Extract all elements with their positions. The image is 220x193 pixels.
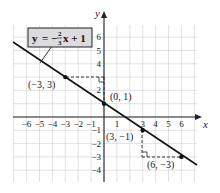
y-tick-label: −1 (91, 125, 101, 135)
y-tick-label: 5 (97, 46, 102, 56)
equation-denominator: 3 (58, 39, 62, 47)
data-point (141, 128, 145, 132)
x-tick-label: −5 (35, 119, 45, 129)
point-label-neg3-3: (−3, 3) (28, 79, 55, 91)
y-tick-label: 2 (97, 85, 102, 95)
x-axis-label: x (202, 118, 208, 130)
y-tick-label: −2 (91, 139, 101, 149)
y-axis-label: y (94, 7, 100, 19)
x-tick-label: −2 (73, 119, 83, 129)
data-point (179, 155, 183, 159)
point-label-6-neg3: (6, −3) (147, 159, 174, 171)
equation-rest: x + 1 (63, 32, 86, 44)
point-label-0-1: (0, 1) (110, 91, 132, 103)
y-tick-label: −3 (91, 152, 101, 162)
x-tick-labels: −6−5−4−3−2−113456 (22, 119, 184, 129)
x-tick-label: −6 (22, 119, 32, 129)
equation-equals: = (42, 32, 48, 44)
x-tick-label: −4 (48, 119, 58, 129)
equation-numerator: 2 (58, 30, 62, 38)
y-tick-label: −4 (91, 165, 101, 175)
x-tick-label: 1 (115, 119, 120, 129)
data-point (102, 102, 106, 106)
data-point (63, 75, 67, 79)
x-tick-label: −3 (61, 119, 71, 129)
point-label-3-neg1: (3, −1) (106, 131, 133, 143)
y-tick-label: 6 (97, 32, 102, 42)
x-tick-label: 4 (153, 119, 158, 129)
equation-y: y (32, 32, 38, 44)
x-tick-label: 6 (179, 119, 184, 129)
x-tick-label: 5 (166, 119, 171, 129)
equation-minus: − (51, 32, 57, 44)
y-tick-label: 4 (97, 59, 102, 69)
linear-equation-graph: x y −6−5−4−3−2−113456 6542−1−2−3−4 y = −… (0, 0, 220, 193)
